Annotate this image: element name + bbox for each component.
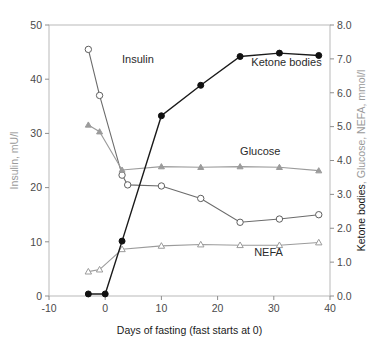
x-tick-label: 20 xyxy=(212,302,224,314)
datapoint-insulin xyxy=(276,216,282,222)
y-right-tick-label: 5.0 xyxy=(337,120,352,132)
x-tick-label: -10 xyxy=(41,302,56,314)
series-label-nefa: NEFA xyxy=(254,246,283,258)
datapoint-ketone-bodies xyxy=(85,291,91,297)
datapoint-insulin xyxy=(96,92,102,98)
datapoint-glucose xyxy=(97,129,103,134)
y-right-tick-label: 3.0 xyxy=(337,188,352,200)
y-left-tick-label: 20 xyxy=(30,181,42,193)
y-axis-right-title: Ketone bodies, Glucose, NEFA, mmol/l xyxy=(355,70,367,252)
fasting-metabolites-chart: 010203040500.01.02.03.04.05.06.07.08.0-1… xyxy=(0,0,379,353)
datapoint-insulin xyxy=(237,219,243,225)
datapoint-ketone-bodies xyxy=(237,54,243,60)
y-right-tick-label: 0.0 xyxy=(337,290,352,302)
x-tick-label: 40 xyxy=(324,302,336,314)
y-left-tick-label: 0 xyxy=(36,290,42,302)
series-label-insulin: Insulin xyxy=(122,53,154,65)
datapoint-nefa xyxy=(316,239,322,245)
y-right-tick-label: 7.0 xyxy=(337,53,352,65)
y-right-tick-label: 4.0 xyxy=(337,154,352,166)
chart-container: 010203040500.01.02.03.04.05.06.07.08.0-1… xyxy=(0,0,379,353)
x-tick-label: 30 xyxy=(268,302,280,314)
datapoint-ketone-bodies xyxy=(276,50,282,56)
x-axis-title: Days of fasting (fast starts at 0) xyxy=(117,324,262,336)
datapoint-insulin xyxy=(316,212,322,218)
y-right-tick-label: 6.0 xyxy=(337,87,352,99)
datapoint-insulin xyxy=(124,182,130,188)
datapoint-glucose xyxy=(85,122,91,127)
y-left-tick-label: 50 xyxy=(30,19,42,31)
y-left-tick-label: 10 xyxy=(30,236,42,248)
y-left-tick-label: 40 xyxy=(30,73,42,85)
x-tick-label: 10 xyxy=(156,302,168,314)
datapoint-ketone-bodies xyxy=(198,82,204,88)
datapoint-insulin xyxy=(198,195,204,201)
y-left-tick-label: 30 xyxy=(30,127,42,139)
datapoint-insulin xyxy=(119,172,125,178)
datapoint-ketone-bodies xyxy=(119,238,125,244)
y-right-tick-label: 2.0 xyxy=(337,222,352,234)
datapoint-insulin xyxy=(158,183,164,189)
series-line-glucose xyxy=(88,125,318,171)
datapoint-insulin xyxy=(85,46,91,52)
datapoint-ketone-bodies xyxy=(102,291,108,297)
y-right-tick-label: 8.0 xyxy=(337,19,352,31)
series-label-ketone-bodies: Ketone bodies xyxy=(251,56,322,68)
y-axis-left-title: Insulin, mU/l xyxy=(8,132,20,190)
datapoint-ketone-bodies xyxy=(158,113,164,119)
series-label-glucose: Glucose xyxy=(240,145,280,157)
y-right-tick-label: 1.0 xyxy=(337,256,352,268)
x-tick-label: 0 xyxy=(102,302,108,314)
